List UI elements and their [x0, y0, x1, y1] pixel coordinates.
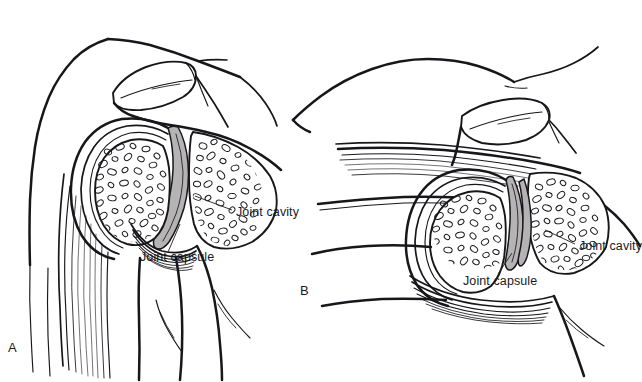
label-joint-capsule-a: Joint capsule	[140, 250, 214, 264]
panel-b-joint-cavity	[505, 176, 531, 270]
panel-letter-b: B	[300, 283, 309, 298]
panel-a-scapula-inferior	[197, 246, 250, 380]
panel-b-drawing	[293, 47, 640, 376]
panel-letter-a: A	[8, 340, 17, 355]
label-joint-cavity-a: Joint cavity	[236, 205, 299, 219]
label-joint-capsule-b: Joint capsule	[463, 274, 537, 288]
panel-a-glenoid-bone	[189, 132, 277, 254]
panel-b-glenoid-bone	[528, 173, 609, 276]
panel-b-acromion	[461, 99, 550, 145]
anatomy-figure: Joint cavity Joint capsule Joint cavity …	[0, 0, 642, 382]
panel-a-humeral-head	[71, 118, 170, 259]
panel-b-body-outline	[293, 47, 598, 132]
anatomy-illustration	[0, 0, 642, 382]
label-joint-cavity-b: Joint cavity	[579, 239, 642, 253]
panel-a-acromion	[113, 62, 196, 110]
